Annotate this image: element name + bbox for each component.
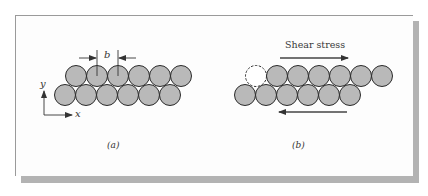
panel-a-atoms	[55, 66, 192, 106]
atom	[150, 66, 171, 87]
atom	[277, 85, 298, 106]
atom	[298, 85, 319, 106]
atom	[288, 66, 309, 87]
atom	[55, 85, 76, 106]
atom-diagram	[0, 0, 428, 196]
atom	[267, 66, 288, 87]
caption-a: (a)	[107, 140, 119, 150]
shear-stress-label: Shear stress	[285, 39, 345, 50]
atom	[330, 66, 351, 87]
atom	[340, 85, 361, 106]
atom	[319, 85, 340, 106]
atom	[160, 85, 181, 106]
y-axis-label: y	[40, 78, 46, 89]
atom	[372, 66, 393, 87]
caption-b: (b)	[292, 140, 305, 150]
atom	[129, 66, 150, 87]
atom	[235, 85, 256, 106]
panel-b-atoms	[235, 66, 393, 106]
atom	[97, 85, 118, 106]
spacing-label: b	[104, 49, 110, 60]
atom	[351, 66, 372, 87]
atom	[118, 85, 139, 106]
atom	[171, 66, 192, 87]
x-axis-label: x	[75, 108, 81, 119]
atom	[309, 66, 330, 87]
atom	[76, 85, 97, 106]
figure: b y x (a) Shear stress (b)	[0, 0, 428, 196]
atom	[139, 85, 160, 106]
atom	[66, 66, 87, 87]
vacant-atom-site	[246, 66, 267, 87]
atom	[256, 85, 277, 106]
